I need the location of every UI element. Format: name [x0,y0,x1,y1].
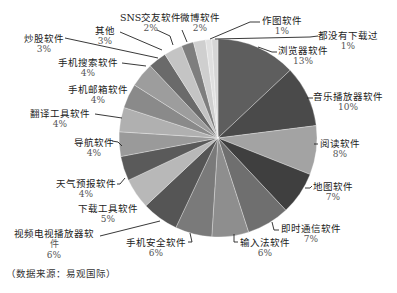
label-music: 音乐播放器软件10% [313,91,383,113]
label-weather: 天气预报软件4% [56,178,116,200]
label-search: 手机搜索软件4% [58,57,118,79]
label-video: 视频电视播放器软件6% [14,228,94,261]
label-translate: 翻译工具软件4% [30,108,90,130]
label-im: 即时通信软件7% [281,223,341,245]
data-source-note: （数据来源：易观国际） [6,266,116,280]
label-download: 下载工具软件5% [78,203,138,225]
label-security: 手机安全软件6% [126,237,186,259]
label-sns: SNS交友软件2% [120,12,181,34]
label-drawing: 作图软件1% [262,15,302,37]
label-mail: 手机邮箱软件4% [68,84,128,106]
leader-im [272,222,279,230]
label-stock: 炒股软件3% [24,33,64,55]
leader-map [305,186,312,188]
label-weibo: 微博软件2% [180,12,220,34]
label-map: 地图软件7% [313,181,353,203]
leader-other [120,32,162,50]
leader-search [122,63,146,66]
leader-security [188,233,192,242]
leader-weather [117,178,125,184]
leader-translate [95,114,122,118]
label-other: 其他3% [95,25,115,47]
label-none-downloaded: 都没有下载过1% [318,30,378,52]
label-input: 输入法软件6% [240,237,290,259]
pie-slices [119,39,317,237]
label-nav: 导航软件4% [74,137,114,159]
label-reading: 阅读软件8% [320,138,360,160]
